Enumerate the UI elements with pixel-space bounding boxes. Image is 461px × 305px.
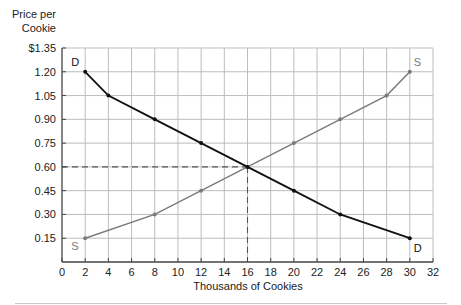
y-tick-label: $1.35 bbox=[0, 42, 56, 54]
supply-point bbox=[338, 117, 342, 121]
y-tick-label: 0.90 bbox=[0, 113, 56, 125]
y-axis-title: Price per Cookie bbox=[0, 7, 56, 35]
y-tick-label: 0.15 bbox=[0, 232, 56, 244]
bottom-rule bbox=[15, 303, 447, 304]
x-tick-label: 16 bbox=[241, 266, 253, 278]
demand-point bbox=[246, 165, 250, 169]
y-tick-label: 0.30 bbox=[0, 208, 56, 220]
demand-point bbox=[338, 212, 342, 216]
x-tick-label: 22 bbox=[311, 266, 323, 278]
x-tick-label: 28 bbox=[381, 266, 393, 278]
supply-point bbox=[83, 236, 87, 240]
demand-point bbox=[408, 236, 412, 240]
supply-point bbox=[408, 70, 412, 74]
x-axis-title: Thousands of Cookies bbox=[193, 280, 302, 292]
supply-point bbox=[385, 94, 389, 98]
supply-demand-chart bbox=[0, 0, 461, 305]
demand-label: D bbox=[71, 56, 79, 68]
x-tick-label: 32 bbox=[427, 266, 439, 278]
x-tick-label: 6 bbox=[129, 266, 135, 278]
y-tick-label: 1.20 bbox=[0, 66, 56, 78]
supply-point bbox=[292, 141, 296, 145]
supply-label: S bbox=[71, 240, 78, 252]
y-tick-label: 0.60 bbox=[0, 161, 56, 173]
y-tick-label: 1.05 bbox=[0, 90, 56, 102]
supply-point bbox=[199, 189, 203, 193]
x-tick-label: 18 bbox=[265, 266, 277, 278]
x-tick-label: 24 bbox=[334, 266, 346, 278]
demand-point bbox=[106, 94, 110, 98]
x-tick-label: 10 bbox=[172, 266, 184, 278]
supply-point bbox=[153, 212, 157, 216]
demand-point bbox=[292, 189, 296, 193]
demand-point bbox=[83, 70, 87, 74]
supply-label: S bbox=[414, 56, 421, 68]
x-tick-label: 12 bbox=[195, 266, 207, 278]
x-tick-label: 20 bbox=[288, 266, 300, 278]
x-tick-label: 14 bbox=[218, 266, 230, 278]
demand-point bbox=[153, 117, 157, 121]
demand-label: D bbox=[414, 242, 422, 254]
x-tick-label: 0 bbox=[59, 266, 65, 278]
y-axis-title-line1: Price per bbox=[0, 7, 56, 21]
x-tick-label: 2 bbox=[82, 266, 88, 278]
y-tick-label: 0.75 bbox=[0, 137, 56, 149]
demand-point bbox=[199, 141, 203, 145]
x-tick-label: 4 bbox=[105, 266, 111, 278]
y-axis-title-line2: Cookie bbox=[0, 21, 56, 35]
y-tick-label: 0.45 bbox=[0, 185, 56, 197]
x-tick-label: 8 bbox=[152, 266, 158, 278]
x-tick-label: 26 bbox=[357, 266, 369, 278]
x-tick-label: 30 bbox=[404, 266, 416, 278]
